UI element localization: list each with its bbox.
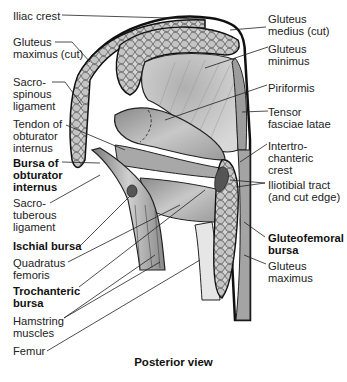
- label-quadratus-femoris: Quadratus femoris: [13, 257, 65, 281]
- label-tensor-fasciae-latae: Tensor fasciae latae: [268, 106, 331, 130]
- label-piriformis: Piriformis: [268, 82, 315, 94]
- label-gluteus-medius-cut: Gluteus medius (cut): [268, 13, 330, 37]
- label-gluteofemoral-bursa: Gluteofemoral bursa: [268, 232, 344, 256]
- label-hamstring-muscles: Hamstring muscles: [13, 315, 64, 339]
- label-gluteus-maximus: Gluteus maximus: [268, 260, 313, 284]
- label-tendon-obturator-internus: Tendon of obturator internus: [13, 118, 62, 154]
- view-caption: Posterior view: [0, 356, 347, 368]
- label-iliac-crest: Iliac crest: [13, 10, 60, 22]
- label-sacrotuberous-ligament: Sacro- tuberous ligament: [13, 197, 57, 233]
- label-gluteus-maximus-cut: Gluteus maximus (cut): [13, 36, 83, 60]
- label-intertrochanteric-crest: Intertro- chanteric crest: [268, 140, 313, 176]
- label-bursa-obturator-internus: Bursa of obturator internus: [13, 157, 63, 193]
- label-sacrospinous-ligament: Sacro- spinous ligament: [13, 76, 55, 112]
- label-trochanteric-bursa: Trochanteric bursa: [13, 285, 80, 309]
- label-iliotibial-tract: Iliotibial tract (and cut edge): [268, 179, 340, 203]
- ischial-bursa-shape: [127, 185, 137, 197]
- label-gluteus-minimus: Gluteus minimus: [268, 43, 310, 67]
- label-ischial-bursa: Ischial bursa: [13, 240, 81, 252]
